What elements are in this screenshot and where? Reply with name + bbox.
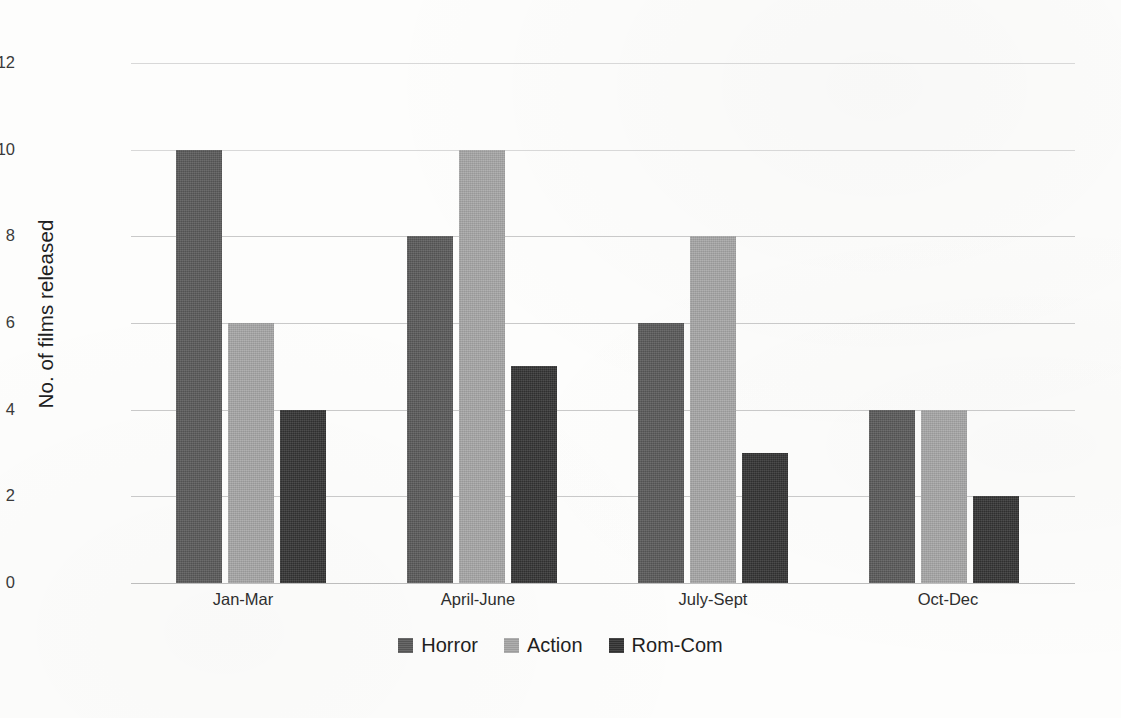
gridline-12 <box>131 63 1075 64</box>
bar-horror-jan-mar <box>176 150 222 583</box>
bar-action-july-sept <box>690 236 736 583</box>
bar-chart-figure: No. of films released 024681012 Jan-MarA… <box>0 0 1121 718</box>
y-tick-label-4: 4 <box>0 400 15 419</box>
y-tick-label-6: 6 <box>0 313 15 332</box>
legend-swatch-icon-rom-com <box>609 638 624 653</box>
x-tick-label-july-sept: July-Sept <box>603 590 823 609</box>
plot-area <box>131 63 1075 583</box>
bar-horror-april-june <box>407 236 453 583</box>
bar-rom-com-jan-mar <box>280 410 326 583</box>
chart-legend: HorrorActionRom-Com <box>0 634 1121 657</box>
bar-horror-oct-dec <box>869 410 915 583</box>
x-axis-line <box>131 583 1075 584</box>
bar-rom-com-april-june <box>511 366 557 583</box>
legend-item-horror[interactable]: Horror <box>398 634 478 657</box>
y-axis-title: No. of films released <box>34 164 58 464</box>
y-tick-label-8: 8 <box>0 226 15 245</box>
x-tick-label-jan-mar: Jan-Mar <box>133 590 353 609</box>
legend-label: Horror <box>421 634 478 657</box>
x-tick-label-oct-dec: Oct-Dec <box>838 590 1058 609</box>
bar-action-jan-mar <box>228 323 274 583</box>
legend-swatch-icon-horror <box>398 638 413 653</box>
bar-rom-com-july-sept <box>742 453 788 583</box>
y-tick-label-10: 10 <box>0 140 15 159</box>
legend-swatch-icon-action <box>504 638 519 653</box>
gridline-10 <box>131 150 1075 151</box>
bar-action-april-june <box>459 150 505 583</box>
bar-horror-july-sept <box>638 323 684 583</box>
bar-action-oct-dec <box>921 410 967 583</box>
legend-item-action[interactable]: Action <box>504 634 583 657</box>
gridline-8 <box>131 236 1075 237</box>
bar-rom-com-oct-dec <box>973 496 1019 583</box>
legend-label: Action <box>527 634 583 657</box>
y-tick-label-2: 2 <box>0 486 15 505</box>
y-tick-label-0: 0 <box>0 573 15 592</box>
x-tick-label-april-june: April-June <box>368 590 588 609</box>
legend-label: Rom-Com <box>632 634 723 657</box>
y-tick-label-12: 12 <box>0 53 15 72</box>
legend-item-rom-com[interactable]: Rom-Com <box>609 634 723 657</box>
